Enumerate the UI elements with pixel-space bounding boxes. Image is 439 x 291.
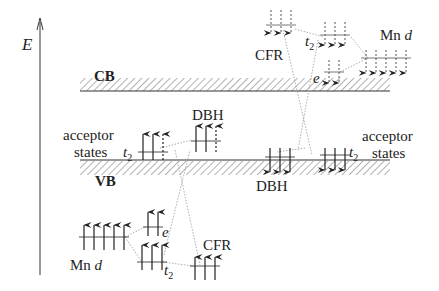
dbh-up-label: DBH: [192, 107, 224, 123]
t2-up-arrows: [137, 245, 167, 270]
cfr-down-arrows: [266, 10, 296, 33]
conduction-band: CB: [80, 68, 390, 91]
mn-d-down-label: Mn d: [380, 27, 413, 43]
e-up-arrows: [143, 212, 163, 236]
cfr-up-arrows: [190, 257, 220, 280]
acceptor-states-left-line1: acceptor: [63, 127, 114, 143]
e-down-label: e: [313, 70, 320, 86]
cb-label: CB: [94, 68, 115, 84]
cfr-up-label: CFR: [203, 237, 231, 253]
acceptor-states-left-line2: states: [74, 144, 107, 160]
energy-level-diagram: E CB VB acceptor states t2: [0, 0, 439, 291]
acceptor-states-right-line2: states: [372, 145, 405, 161]
e-up-label: e: [162, 224, 169, 240]
t2-down-arrows: [320, 22, 350, 45]
valence-band: VB: [80, 160, 390, 189]
t2-up-label: t2: [164, 262, 173, 281]
acceptor-t2-down-arrows: [320, 148, 350, 170]
dbh-down-arrows: [265, 148, 295, 172]
acceptor-states-right-line1: acceptor: [362, 128, 413, 144]
vb-label: VB: [95, 173, 116, 189]
mn-d-down-arrows: [361, 50, 411, 73]
acceptor-t2-up-arrows: [138, 134, 168, 160]
mn-d-up-arrows: [79, 225, 129, 250]
energy-axis: E: [21, 18, 43, 275]
mn-d-up-label: Mn d: [70, 257, 103, 273]
dbh-up-arrows: [191, 126, 221, 152]
t2-down-label: t2: [305, 33, 314, 52]
cfr-down-label: CFR: [255, 47, 283, 63]
dbh-down-label: DBH: [256, 178, 288, 194]
energy-axis-label: E: [21, 35, 33, 54]
